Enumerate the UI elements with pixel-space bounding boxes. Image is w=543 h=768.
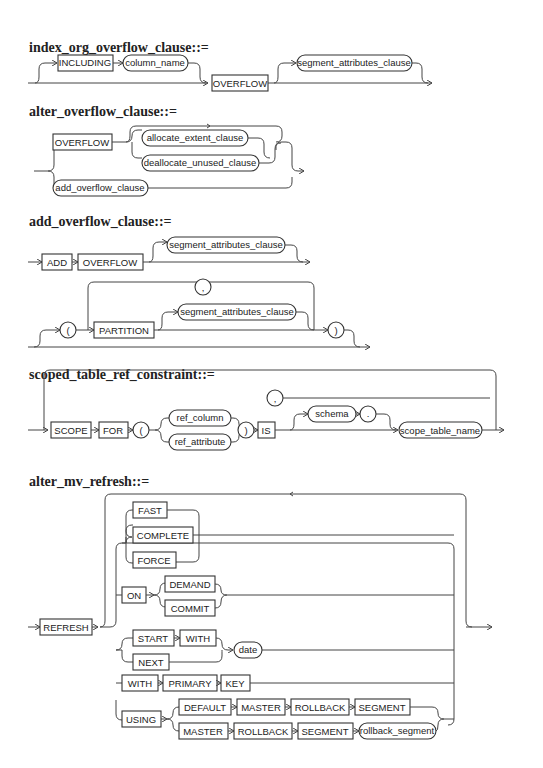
keyword-next-label: NEXT — [138, 657, 164, 668]
keyword-using-label: USING — [126, 714, 156, 725]
nonterminal-column-name-label: column_name — [125, 57, 185, 68]
keyword-start-label: START — [138, 633, 168, 644]
keyword-segment-2-label: SEGMENT — [302, 726, 349, 737]
syntax-diagrams: INCLUDING column_name OVERFLOW segment_a… — [0, 0, 543, 768]
nonterminal-scope-table-name-label: scope_table_name — [400, 425, 480, 436]
diagram-add-overflow-clause: ADD OVERFLOW segment_attributes_clause (… — [28, 237, 370, 347]
nonterminal-add-overflow-clause-label: add_overflow_clause — [55, 182, 144, 193]
symbol-close-paren-label: ) — [334, 325, 337, 336]
keyword-overflow-label: OVERFLOW — [55, 137, 109, 148]
keyword-master-label: MASTER — [241, 702, 281, 713]
nonterminal-date-label: date — [239, 644, 258, 655]
keyword-scope-label: SCOPE — [54, 425, 87, 436]
keyword-with-2-label: WITH — [128, 678, 152, 689]
nonterminal-segment-attributes-clause-label: segment_attributes_clause — [169, 239, 283, 250]
symbol-comma-label: , — [202, 282, 205, 293]
keyword-overflow-label: OVERFLOW — [213, 78, 267, 89]
diagram-scoped-table-ref-constraint: , SCOPE FOR ( ref_column ref_attribute )… — [28, 370, 504, 450]
keyword-add-label: ADD — [47, 257, 67, 268]
keyword-for-label: FOR — [103, 425, 123, 436]
symbol-close-paren-label: ) — [244, 425, 247, 436]
nonterminal-ref-column-label: ref_column — [177, 412, 224, 423]
keyword-including-label: INCLUDING — [59, 57, 111, 68]
diagram-index-org-overflow-clause: INCLUDING column_name OVERFLOW segment_a… — [28, 55, 432, 91]
keyword-is-label: IS — [262, 425, 271, 436]
keyword-segment-label: SEGMENT — [359, 702, 406, 713]
keyword-refresh-label: REFRESH — [43, 622, 89, 633]
keyword-rollback-2-label: ROLLBACK — [238, 726, 289, 737]
nonterminal-schema-label: schema — [315, 408, 349, 419]
nonterminal-allocate-extent-clause-label: allocate_extent_clause — [147, 132, 244, 143]
keyword-rollback-label: ROLLBACK — [295, 702, 346, 713]
keyword-complete-label: COMPLETE — [137, 530, 189, 541]
diagram-alter-mv-refresh: REFRESH FAST COMPLETE FORCE ON DEMAND CO… — [28, 492, 492, 739]
keyword-on-label: ON — [127, 590, 141, 601]
keyword-primary-label: PRIMARY — [168, 678, 212, 689]
keyword-partition-label: PARTITION — [99, 325, 149, 336]
keyword-with-label: WITH — [186, 633, 210, 644]
nonterminal-rollback-segment-label: rollback_segment — [360, 725, 435, 736]
keyword-master-2-label: MASTER — [183, 726, 223, 737]
keyword-overflow-label: OVERFLOW — [83, 257, 137, 268]
nonterminal-deallocate-unused-clause-label: deallocate_unused_clause — [144, 157, 257, 168]
keyword-force-label: FORCE — [137, 555, 170, 566]
keyword-default-label: DEFAULT — [184, 702, 226, 713]
keyword-key-label: KEY — [225, 678, 245, 689]
diagram-alter-overflow-clause: OVERFLOW allocate_extent_clause dealloca… — [34, 124, 304, 196]
nonterminal-segment-attributes-clause-label: segment_attributes_clause — [297, 57, 411, 68]
keyword-demand-label: DEMAND — [169, 579, 210, 590]
keyword-fast-label: FAST — [138, 505, 162, 516]
nonterminal-ref-attribute-label: ref_attribute — [175, 436, 226, 447]
nonterminal-segment-attributes-clause-2-label: segment_attributes_clause — [180, 306, 294, 317]
keyword-commit-label: COMMIT — [171, 603, 210, 614]
symbol-comma-label: , — [274, 393, 277, 404]
symbol-period-label: . — [367, 408, 370, 419]
